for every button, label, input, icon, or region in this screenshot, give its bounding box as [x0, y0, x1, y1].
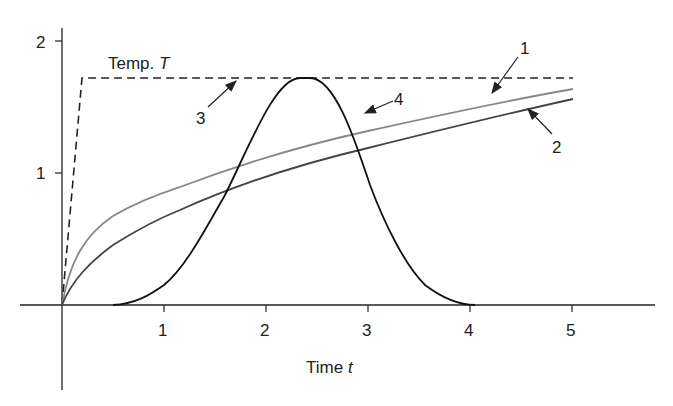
series-3-temp-dashed: [62, 78, 573, 305]
curve-label-4: 4: [394, 90, 403, 109]
curve-label-1: 1: [520, 39, 529, 58]
curve-label-3: 3: [196, 109, 205, 128]
arrow-2: [528, 109, 552, 134]
x-tick-label-2: 2: [260, 321, 269, 340]
x-tick-label-5: 5: [566, 321, 575, 340]
arrow-3: [208, 81, 236, 107]
arrow-1: [492, 57, 518, 93]
y-tick-label-1: 1: [36, 164, 45, 183]
x-tick-label-1: 1: [158, 321, 167, 340]
temp-label: Temp. T: [108, 54, 171, 73]
curve-label-2: 2: [552, 138, 561, 157]
chart: 2 1 1 2 3 4 5 Time t Temp. T 1 2 3 4: [0, 0, 673, 406]
y-tick-label-2: 2: [36, 33, 45, 52]
x-axis-label: Time t: [306, 358, 354, 377]
arrow-4: [365, 101, 393, 113]
series-1-curve: [62, 89, 573, 305]
x-tick-label-4: 4: [464, 321, 473, 340]
x-tick-label-3: 3: [362, 321, 371, 340]
